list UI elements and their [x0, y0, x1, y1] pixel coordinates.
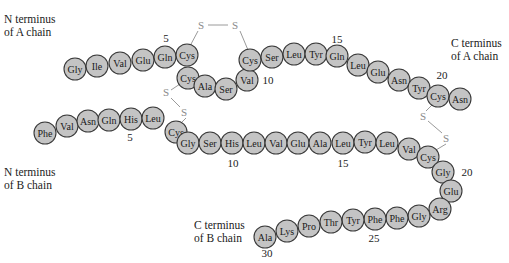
residue-B4: Gln: [98, 109, 120, 131]
residue-A17: Glu: [367, 61, 389, 83]
disulfide-line: [171, 84, 180, 90]
residue-B2: Val: [56, 115, 78, 137]
residue-label: Tyr: [309, 49, 323, 60]
position-number: 25: [369, 232, 381, 244]
residue-label: Glu: [291, 138, 306, 149]
residue-label: Cys: [180, 73, 196, 84]
residue-label: Gly: [412, 211, 427, 222]
residue-A13: Leu: [283, 43, 305, 65]
residue-A10: Val: [236, 69, 258, 91]
residue-A16: Leu: [347, 54, 369, 76]
residue-label: Ser: [265, 52, 279, 63]
residue-label: Gly: [436, 167, 451, 178]
residue-B27: Thr: [320, 211, 342, 233]
residue-label: Arg: [432, 204, 447, 215]
residue-label: Val: [113, 58, 127, 69]
sulfur-atom: S: [181, 106, 187, 118]
residue-A3: Val: [109, 52, 131, 74]
residue-B30: Ala: [254, 226, 276, 248]
residue-label: Asn: [391, 75, 407, 86]
residue-label: His: [124, 114, 138, 125]
disulfide-line: [426, 105, 432, 111]
residue-B26: Tyr: [342, 209, 364, 231]
residue-label: Ala: [198, 81, 213, 92]
position-number: 5: [127, 131, 133, 143]
residue-A15: Gln: [326, 45, 348, 67]
n-terminus-b-line2: of B chain: [4, 179, 52, 191]
residue-label: Ser: [203, 138, 217, 149]
residue-A9: Ser: [215, 78, 237, 100]
residue-A11: Cys: [239, 49, 261, 71]
n-terminus-a-line1: N terminus: [4, 13, 56, 25]
position-number: 5: [163, 32, 169, 44]
disulfide-line: [240, 31, 248, 50]
residue-A8: Ala: [194, 75, 216, 97]
residue-A18: Asn: [388, 69, 410, 91]
residue-label: Gln: [102, 115, 117, 126]
residue-B12: Val: [265, 132, 287, 154]
residue-label: Ala: [258, 232, 273, 243]
residue-B14: Ala: [309, 132, 331, 154]
c-terminus-a-label: C terminus of A chain: [451, 37, 502, 62]
insulin-structure-diagram: GlyIleValGluGlnCysCysAlaSerValCysSerLeuT…: [0, 0, 509, 263]
residue-label: Cys: [430, 91, 446, 102]
residue-label: Leu: [145, 113, 161, 124]
residue-B15: Leu: [332, 132, 354, 154]
disulfide-line: [171, 98, 180, 107]
residue-B29: Lys: [276, 220, 298, 242]
residue-A2: Ile: [86, 55, 108, 77]
residue-A1: Gly: [64, 58, 86, 80]
residue-label: Phe: [38, 128, 54, 139]
c-terminus-b-line2: of B chain: [194, 232, 242, 244]
residue-label: Ile: [92, 61, 103, 72]
residue-label: Thr: [324, 217, 339, 228]
residue-label: Cys: [179, 50, 195, 61]
residue-label: Ala: [313, 138, 328, 149]
residue-label: Leu: [350, 60, 366, 71]
residue-B1: Phe: [34, 122, 56, 144]
residue-label: Tyr: [358, 137, 372, 148]
residue-B17: Leu: [376, 132, 398, 154]
n-terminus-b-label: N terminus of B chain: [4, 166, 56, 191]
residue-label: Pro: [302, 221, 316, 232]
residue-B5: His: [120, 108, 142, 130]
residue-B11: Leu: [243, 132, 265, 154]
n-terminus-b-line1: N terminus: [4, 166, 56, 178]
residue-B3: Asn: [77, 110, 99, 132]
position-number: 20: [462, 166, 474, 178]
n-terminus-a-label: N terminus of A chain: [4, 13, 56, 38]
residue-A5: Gln: [154, 46, 176, 68]
residue-label: Leu: [335, 138, 351, 149]
residue-label: Phe: [368, 214, 384, 225]
residue-B28: Pro: [298, 215, 320, 237]
residue-B6: Leu: [142, 107, 164, 129]
residue-A21: Asn: [449, 88, 471, 110]
position-number: 20: [437, 69, 449, 81]
residue-label: Asn: [452, 94, 468, 105]
residue-label: Tyr: [346, 215, 360, 226]
position-number: 15: [332, 33, 344, 45]
c-terminus-a-line1: C terminus: [451, 37, 502, 49]
position-number: 10: [228, 157, 240, 169]
residue-label: Val: [269, 138, 283, 149]
sulfur-atom: S: [163, 86, 169, 98]
residue-label: Gly: [181, 138, 196, 149]
residue-label: Val: [402, 144, 416, 155]
residue-label: Tyr: [412, 83, 426, 94]
residue-B9: Ser: [199, 132, 221, 154]
n-terminus-a-line2: of A chain: [4, 26, 52, 38]
residue-label: Val: [240, 75, 254, 86]
residue-B13: Glu: [287, 132, 309, 154]
residue-label: Leu: [286, 49, 302, 60]
residue-label: Ser: [219, 84, 233, 95]
residue-label: Val: [60, 121, 74, 132]
sulfur-atom: S: [232, 19, 238, 31]
residue-A12: Ser: [261, 46, 283, 68]
residue-B25: Phe: [364, 208, 386, 230]
disulfide-line: [428, 121, 442, 133]
c-terminus-a-line2: of A chain: [451, 50, 499, 62]
residue-B16: Tyr: [354, 131, 376, 153]
disulfide-line: [436, 144, 446, 150]
residue-label: Glu: [444, 186, 459, 197]
residue-B24: Phe: [386, 207, 408, 229]
